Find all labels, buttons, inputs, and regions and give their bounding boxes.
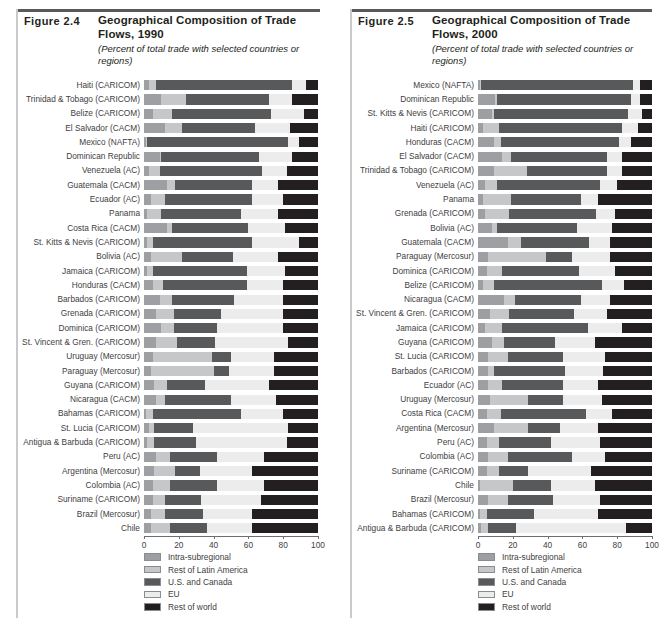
- stacked-bar: [144, 509, 318, 519]
- bar-row: Antigua & Barbuda (CARICOM): [352, 521, 654, 535]
- axis-tick-label: 0: [476, 540, 481, 550]
- bar-row-label: Ecuador (AC): [352, 381, 478, 390]
- bar-segment: [231, 395, 276, 405]
- stacked-bar: [144, 166, 318, 176]
- bar-segment: [283, 194, 318, 204]
- stacked-bar: [478, 337, 652, 347]
- bar-segment: [478, 152, 502, 162]
- bar-segment: [504, 337, 554, 347]
- legend-item: EU: [144, 588, 319, 600]
- legend-item: Intra-subregional: [478, 551, 653, 563]
- bar-segment: [508, 237, 522, 247]
- bar-row: Barbados (CARICOM): [18, 292, 320, 306]
- bar-segment: [283, 295, 318, 305]
- stacked-bar: [478, 509, 652, 519]
- figure-number: Figure 2.4: [16, 14, 98, 27]
- stacked-bar: [144, 352, 318, 362]
- figure-title: Geographical Composition of Trade Flows,…: [432, 14, 656, 41]
- legend-swatch: [478, 553, 495, 561]
- bar-row-label: Belize (CARICOM): [18, 109, 144, 118]
- bar-row-label: Haiti (CARICOM): [352, 124, 478, 133]
- bar-segment: [494, 137, 501, 147]
- bar-row: Colombia (AC): [18, 478, 320, 492]
- figure-number: Figure 2.5: [350, 14, 432, 27]
- figure-header: Figure 2.5 Geographical Composition of T…: [350, 14, 656, 67]
- bar-segment: [528, 395, 563, 405]
- stacked-bar: [144, 480, 318, 490]
- bar-segment: [485, 323, 502, 333]
- bar-row-label: Belize (CARICOM): [352, 281, 478, 290]
- bar-row-label: Dominica (CARICOM): [352, 267, 478, 276]
- axis-tick-label: 40: [209, 540, 218, 550]
- legend-label: Intra-subregional: [168, 552, 231, 562]
- bar-segment: [622, 323, 652, 333]
- bar-segment: [501, 409, 586, 419]
- stacked-bar: [144, 266, 318, 276]
- bar-row: El Salvador (CACM): [352, 149, 654, 163]
- bar-row-label: Suriname (CARICOM): [352, 467, 478, 476]
- stacked-bar: [478, 223, 652, 233]
- bar-segment: [595, 337, 652, 347]
- bar-segment: [292, 152, 318, 162]
- bar-row-label: St. Vincent & Gren. (CARICOM): [18, 338, 144, 347]
- bar-row-label: Trinidad & Tobago (CARICOM): [18, 95, 144, 104]
- legend-label: U.S. and Canada: [502, 577, 566, 587]
- bar-segment: [217, 323, 283, 333]
- stacked-bar: [478, 137, 652, 147]
- bar-row-label: Paraguay (Mercosur): [18, 367, 144, 376]
- figure-panel-2-5: Figure 2.5 Geographical Composition of T…: [334, 0, 668, 632]
- legend-item: Rest of world: [478, 601, 653, 613]
- figure-subtitle: (Percent of total trade with selected co…: [432, 43, 656, 67]
- bar-segment: [161, 323, 173, 333]
- bar-segment: [528, 466, 591, 476]
- bar-segment: [610, 237, 652, 247]
- bar-segment: [494, 423, 529, 433]
- bar-segment: [610, 295, 652, 305]
- legend-item: Rest of world: [144, 601, 319, 613]
- bar-segment: [174, 323, 218, 333]
- bar-segment: [214, 366, 230, 376]
- figure-subtitle: (Percent of total trade with selected co…: [98, 43, 322, 67]
- bar-row-label: El Salvador (CACM): [18, 124, 144, 133]
- bar-row: St. Kitts & Nevis (CARICOM): [352, 107, 654, 121]
- bar-segment: [306, 80, 318, 90]
- bar-segment: [572, 252, 610, 262]
- bar-segment: [201, 495, 260, 505]
- bar-segment: [278, 180, 318, 190]
- stacked-bar: [478, 80, 652, 90]
- bar-segment: [200, 466, 252, 476]
- bar-row: Argentina (Mercosur): [18, 464, 320, 478]
- bar-segment: [283, 323, 318, 333]
- stacked-bar: [144, 423, 318, 433]
- stacked-bar: [478, 123, 652, 133]
- legend-swatch: [144, 603, 161, 611]
- bar-row: Uruguay (Mercosur): [352, 393, 654, 407]
- stacked-bar: [478, 495, 652, 505]
- bar-segment: [153, 409, 242, 419]
- axis-line: [478, 536, 652, 537]
- bar-segment: [144, 295, 160, 305]
- bar-segment: [492, 337, 504, 347]
- stacked-bar: [478, 480, 652, 490]
- bar-segment: [478, 395, 490, 405]
- legend-label: EU: [168, 589, 180, 599]
- stacked-bar: [478, 380, 652, 390]
- bar-segment: [478, 295, 504, 305]
- stacked-bar: [144, 309, 318, 319]
- bar-segment: [478, 166, 494, 176]
- bar-segment: [487, 409, 501, 419]
- bar-segment: [502, 323, 587, 333]
- bar-segment: [167, 180, 176, 190]
- bar-segment: [508, 352, 564, 362]
- bar-segment: [234, 295, 283, 305]
- bar-segment: [252, 523, 318, 533]
- legend-swatch: [144, 566, 161, 574]
- bar-row: Grenada (CARICOM): [18, 307, 320, 321]
- bar-segment: [622, 152, 652, 162]
- bar-row-label: Guyana (CARICOM): [352, 338, 478, 347]
- stacked-bar: [144, 80, 318, 90]
- bar-rows: Mexico (NAFTA)Dominican RepublicSt. Kitt…: [352, 78, 654, 536]
- legend-label: Rest of world: [502, 602, 551, 612]
- stacked-bar: [144, 180, 318, 190]
- bar-row: St. Lucia (CARICOM): [18, 421, 320, 435]
